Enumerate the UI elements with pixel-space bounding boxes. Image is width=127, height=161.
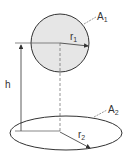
radius-r2-arrow	[60, 132, 90, 148]
label-r2: r2	[78, 130, 85, 143]
leader-a1	[84, 17, 96, 24]
diagram-canvas	[0, 0, 127, 161]
label-r1: r1	[70, 32, 77, 45]
label-a1: A1	[97, 12, 108, 25]
leader-a2	[94, 110, 107, 117]
label-h: h	[5, 80, 11, 90]
label-a2: A2	[108, 105, 119, 118]
base-ellipse	[10, 116, 122, 150]
